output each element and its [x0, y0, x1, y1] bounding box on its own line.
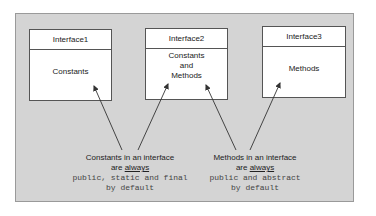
diagram-canvas: Interface1 Constants Interface2 Constant… [0, 0, 376, 216]
interface2-body-line: Constants [146, 51, 227, 61]
interface2-body-line: and [146, 61, 227, 71]
constants-note: Constants in an interface are always pub… [60, 153, 200, 193]
interface1-body: Constants [30, 50, 111, 77]
interface2-title: Interface2 [146, 29, 227, 49]
methods-note-line1: Methods in an interface [196, 153, 314, 163]
interface1-body-line: Constants [30, 67, 111, 77]
interface2-body-line: Methods [146, 71, 227, 81]
methods-note: Methods in an interface are always publi… [196, 153, 314, 193]
methods-note-are: are [236, 163, 250, 172]
methods-note-always: always [250, 163, 274, 172]
interface1-box: Interface1 Constants [29, 29, 112, 101]
constants-note-always: always [125, 163, 149, 172]
interface2-box: Interface2 Constants and Methods [145, 28, 228, 100]
interface2-body: Constants and Methods [146, 49, 227, 81]
constants-note-are: are [111, 163, 125, 172]
constants-note-default: by default [60, 183, 200, 193]
constants-note-line2: are always [60, 163, 200, 173]
methods-note-modifiers: public and abstract [196, 173, 314, 183]
interface3-title: Interface3 [263, 27, 345, 47]
interface1-title: Interface1 [30, 30, 111, 50]
constants-note-line1: Constants in an interface [60, 153, 200, 163]
interface3-body: Methods [263, 47, 345, 74]
methods-note-default: by default [196, 183, 314, 193]
methods-note-line2: are always [196, 163, 314, 173]
constants-note-modifiers: public, static and final [60, 173, 200, 183]
interface3-box: Interface3 Methods [262, 26, 346, 98]
interface3-body-line: Methods [263, 64, 345, 74]
